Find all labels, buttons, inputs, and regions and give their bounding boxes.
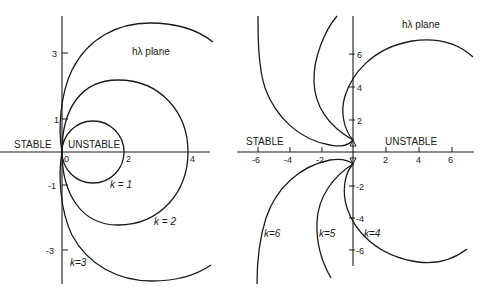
right-x-tick-label: -6 [252,155,260,165]
curve-k5-upper [314,16,353,140]
left-x-tick-label: 4 [190,154,195,164]
right-x-tick-label: 6 [448,155,453,165]
right-y-tick-label: -6 [356,246,364,256]
curve-k5-lower [317,164,353,278]
left-y-tick-label: 3 [52,49,57,59]
figure-canvas: hλ plane STABLE UNSTABLE 0 2 4 3 1 -1 -3… [0,0,489,300]
left-x-tick-label: 2 [126,154,131,164]
left-panel: hλ plane STABLE UNSTABLE 0 2 4 3 1 -1 -3… [0,16,213,284]
left-y-tick-label: 1 [54,115,59,125]
left-stable-label: STABLE [14,139,52,150]
label-k2: k = 2 [154,216,176,227]
right-y-tick-label: -2 [356,182,364,192]
right-x-tick-label: 4 [416,155,421,165]
label-k1: k = 1 [110,179,132,190]
right-y-tick-label: 4 [357,83,362,93]
left-y-tick-label: -3 [46,246,54,256]
label-k6: k=6 [264,228,281,239]
left-unstable-label: UNSTABLE [68,139,120,150]
label-k4: k=4 [364,228,381,239]
right-unstable-label: UNSTABLE [385,136,437,147]
right-stable-label: STABLE [246,136,284,147]
right-x-tick-label: -4 [284,155,292,165]
left-plane-label: hλ plane [132,46,170,57]
curve-k6-upper [258,16,353,146]
right-y-tick-label: 2 [357,116,362,126]
right-plane-label: hλ plane [402,19,440,30]
right-y-tick-label: -4 [356,214,364,224]
left-y-tick-label: -1 [48,181,56,191]
left-x-tick-label: 0 [64,154,69,164]
curve-k4-upper [343,40,473,140]
curve-k6-lower [257,159,353,284]
label-k5: k=5 [319,228,336,239]
right-panel: hλ plane STABLE UNSTABLE -6 -4 -2 2 4 6 … [237,16,474,284]
right-x-tick-label: 2 [383,155,388,165]
curve-k3-upper [60,23,213,152]
right-x-tick-label: -2 [316,155,324,165]
right-y-tick-label: 6 [357,50,362,60]
label-k3: k=3 [70,257,87,268]
